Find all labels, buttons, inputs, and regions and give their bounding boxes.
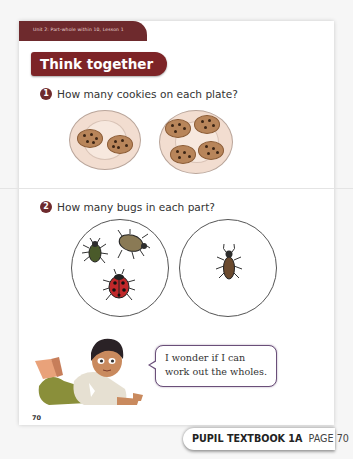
page-fold-line <box>0 188 353 189</box>
part-circle-1 <box>71 219 169 317</box>
beetle-icon <box>80 236 110 266</box>
cookie <box>77 129 103 148</box>
part-circle-2 <box>179 219 277 317</box>
question-number-badge: 1 <box>40 88 52 100</box>
question-number-badge: 2 <box>40 201 52 213</box>
page-label: PAGE 70 <box>309 433 349 444</box>
question-1: 1 How many cookies on each plate? <box>40 88 238 100</box>
ladybird-icon <box>102 268 136 304</box>
stag-beetle-icon <box>214 242 244 284</box>
cookie <box>198 141 224 160</box>
stag-beetle-icon <box>112 228 152 260</box>
page-number: 70 <box>32 414 41 422</box>
section-title: Think together <box>31 52 167 76</box>
question-2: 2 How many bugs in each part? <box>40 201 215 213</box>
unit-header-band: Unit 2: Part-whole within 10, Lesson 1 <box>19 21 147 41</box>
speech-text: I wonder if I canwork out the wholes. <box>165 351 267 379</box>
speech-bubble: I wonder if I canwork out the wholes. <box>155 345 277 387</box>
plate-1 <box>69 110 141 170</box>
cookie <box>165 119 191 138</box>
plate-2 <box>159 110 233 174</box>
textbook-page-badge: PUPIL TEXTBOOK 1A PAGE 70 <box>183 428 335 450</box>
cookie <box>194 115 220 134</box>
cookie <box>170 145 196 164</box>
unit-label: Unit 2: Part-whole within 10, Lesson 1 <box>33 27 124 32</box>
cookie <box>107 135 133 154</box>
child-character-illustration <box>29 331 154 411</box>
question-text: How many cookies on each plate? <box>57 88 238 100</box>
book-label: PUPIL TEXTBOOK 1A <box>192 433 302 444</box>
question-text: How many bugs in each part? <box>57 201 215 213</box>
textbook-page: Unit 2: Part-whole within 10, Lesson 1 T… <box>19 21 334 425</box>
